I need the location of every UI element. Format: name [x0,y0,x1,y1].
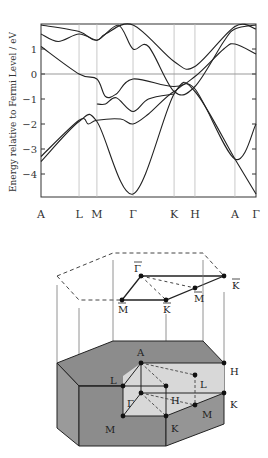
k-point-label: Γ [129,208,137,221]
k-point-label: A [230,208,240,221]
bz-point-label: K [163,304,171,315]
y-tick-label: −1 [22,94,37,105]
k-path-labels: ALMΓKHAΓ [36,208,260,221]
y-tick-label: 1 [31,44,37,55]
k-point-label: K [170,208,179,221]
bz-point-label: A [136,347,145,358]
band-structure-plot: 10−1−2−3−4 ALMΓKHAΓ Energy relative to F… [8,24,260,221]
y-tick-label: 0 [31,69,37,80]
y-tick-label: −3 [22,144,37,155]
bz-point-label: M [194,293,204,304]
bz-point-label: M [105,424,115,435]
k-point-label: H [190,208,200,221]
plot-frame [41,24,256,197]
k-point-label: L [75,208,83,221]
bz-point-label: K [232,280,240,291]
hexagonal-brillouin-zone: ALΓHLHKMMK [57,341,239,446]
bz-point-label: K [171,423,179,434]
y-tick-label: −4 [22,169,37,180]
bz-point-label: L [200,379,207,390]
bz-point-label: K [230,399,238,410]
k-point-label: A [36,208,46,221]
bz-point-label: M [118,304,128,315]
bz-point-label: Γ [134,263,141,274]
y-tick-label: −2 [22,119,37,130]
bz-point-label: M [202,409,212,420]
k-point-label: Γ [252,208,260,221]
figure: 10−1−2−3−4 ALMΓKHAΓ Energy relative to F… [0,0,268,458]
bz-point-label: H [171,395,180,406]
bz-point-label: L [110,375,117,386]
bz-point-label: Γ [127,398,134,409]
bz-point-label: H [230,366,239,377]
y-axis-label: Energy relative to Fermi Level / eV [8,31,18,192]
k-point-label: M [91,208,102,221]
